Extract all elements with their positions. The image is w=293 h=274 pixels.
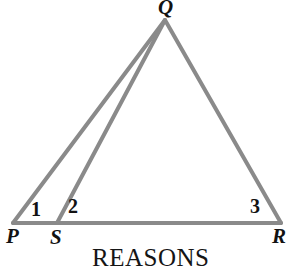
triangle-figure-svg (0, 0, 293, 274)
vertex-label-s: S (50, 227, 62, 248)
angle-label-3: 3 (250, 196, 260, 216)
figure-caption: REASONS (92, 244, 209, 272)
diagram-canvas: Q P S R 1 2 3 REASONS (0, 0, 293, 274)
angle-label-1: 1 (31, 199, 41, 219)
triangle-strokes (13, 20, 281, 223)
segment-PQ (13, 20, 165, 223)
vertex-label-p: P (6, 226, 19, 247)
segment-QR (165, 20, 281, 223)
vertex-label-r: R (272, 226, 286, 247)
angle-label-2: 2 (68, 196, 78, 216)
vertex-label-q: Q (158, 0, 173, 18)
segment-SQ (57, 20, 165, 223)
